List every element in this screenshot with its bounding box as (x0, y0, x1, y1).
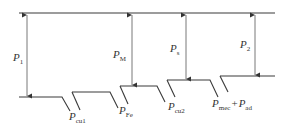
label-pm: PM (112, 48, 127, 63)
label-p2: P2 (239, 38, 251, 53)
label-pfe: PFe (118, 104, 133, 119)
pcu2-loss-branch (167, 80, 175, 97)
pfe-loss-branch (120, 86, 128, 104)
pcu1-loss-branch (72, 92, 80, 110)
pfe-loss-step (72, 92, 118, 108)
power-flow-diagram: P1 PM Ps P2 Pcu1 PFe Pcu2 Pmec+Pad (0, 0, 286, 129)
label-pcu2: Pcu2 (167, 100, 185, 115)
pcu1-loss-step (19, 97, 70, 111)
label-ps: Ps (169, 42, 180, 57)
label-p1: P1 (12, 51, 24, 66)
pcu2-loss-step (120, 86, 165, 102)
label-pmec-pad: Pmec+Pad (211, 97, 252, 112)
label-pcu1: Pcu1 (68, 110, 86, 125)
pmec-loss-branch (220, 76, 228, 92)
pmec-loss-step (167, 80, 218, 97)
